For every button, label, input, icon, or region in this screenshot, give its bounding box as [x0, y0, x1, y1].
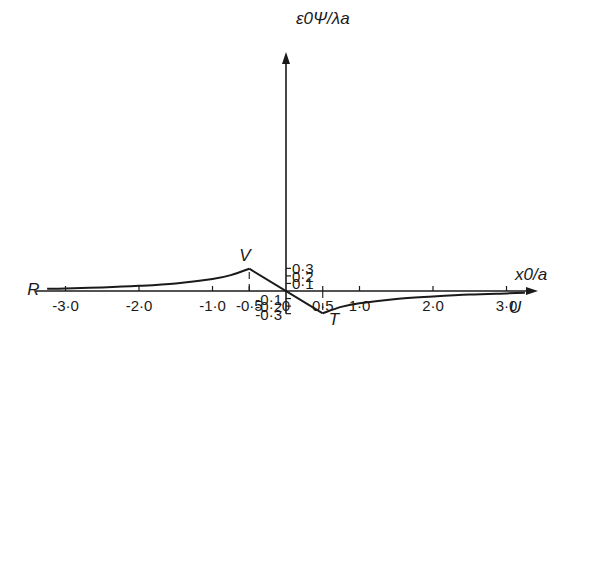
curve-left-branch [47, 269, 249, 289]
origin-label: 0 [282, 297, 290, 314]
point-label-v: V [239, 246, 252, 265]
x-tick-label: -2·0 [126, 297, 153, 314]
x-tick-label: -1·0 [199, 297, 226, 314]
point-label-u: U [509, 298, 522, 317]
point-label-t: T [329, 310, 341, 329]
x-tick-label: -3·0 [52, 297, 79, 314]
x-tick-label: 2·0 [422, 297, 444, 314]
x-tick-label: 1·0 [349, 297, 371, 314]
point-label-r: R [27, 280, 39, 299]
axis-titles: ε0Ψ/λa x0/a [296, 9, 547, 284]
y-tick-label: 0·1 [292, 275, 314, 292]
y-axis-arrow-icon [282, 52, 290, 64]
y-axis-title: ε0Ψ/λa [296, 9, 350, 28]
y-tick-label: -0·3 [255, 306, 282, 323]
x-axis-arrow-icon [526, 287, 538, 295]
axes [36, 52, 538, 314]
chart: -3·0-2·0-1·0-0·50·51·02·03·000·30·20·1-0… [0, 0, 594, 561]
x-axis-title: x0/a [514, 265, 547, 284]
